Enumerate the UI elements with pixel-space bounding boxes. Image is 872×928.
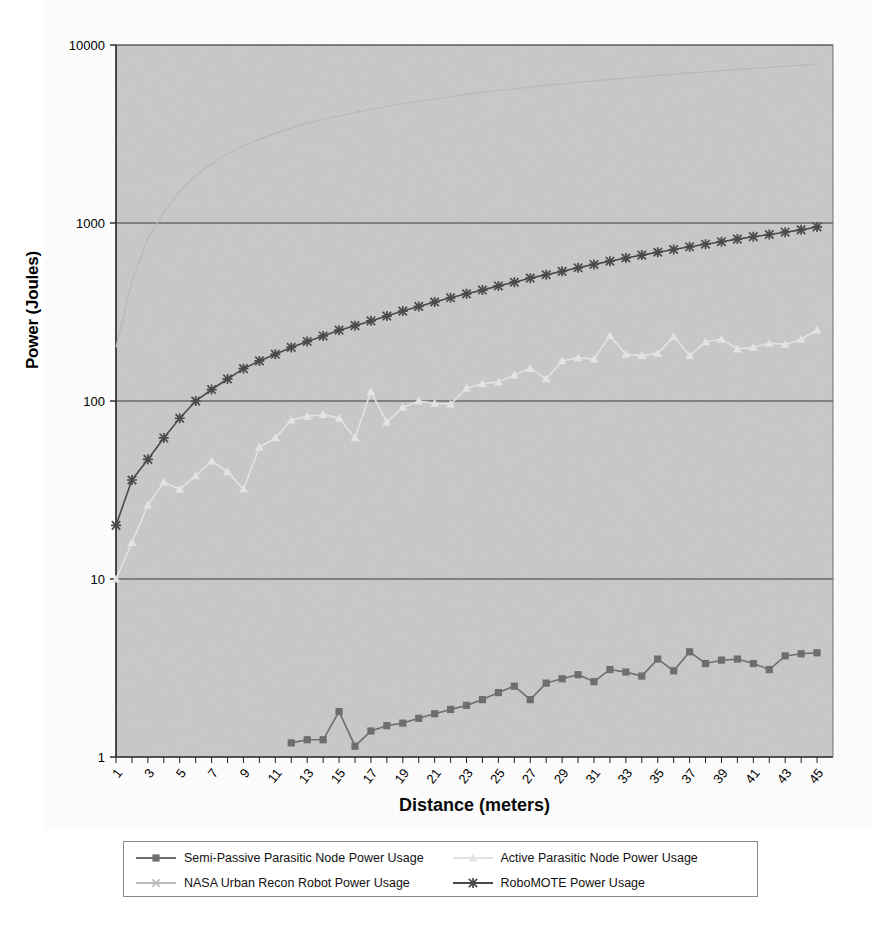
legend-label: Active Parasitic Node Power Usage [501,851,698,865]
marker-square [320,736,327,743]
marker-square [798,650,805,657]
marker-asterisk [270,349,280,359]
marker-asterisk [653,247,663,257]
marker-square [304,736,311,743]
chart-legend: Semi-Passive Parasitic Node Power UsageA… [123,841,758,897]
x-tick-label: 7 [205,766,221,781]
marker-square [622,668,629,675]
marker-asterisk [557,266,567,276]
x-tick-label: 29 [551,766,572,787]
marker-asterisk [812,222,822,232]
legend-label: RoboMOTE Power Usage [501,876,646,890]
marker-asterisk [796,225,806,235]
marker-asterisk [468,878,478,888]
marker-square [638,672,645,679]
marker-square [654,655,661,662]
marker-square [718,657,725,664]
y-tick-label: 1000 [76,216,105,231]
marker-asterisk [764,229,774,239]
marker-square [766,666,773,673]
marker-asterisk [589,259,599,269]
x-tick-label: 35 [646,766,667,787]
legend-item[interactable]: Semi-Passive Parasitic Node Power Usage [124,845,441,870]
marker-asterisk [493,281,503,291]
marker-asterisk [143,454,153,464]
y-tick-label: 100 [83,394,105,409]
marker-asterisk [462,289,472,299]
legend-item[interactable]: Active Parasitic Node Power Usage [441,845,758,870]
marker-square [686,648,693,655]
x-tick-label: 41 [742,766,763,787]
marker-asterisk [318,331,328,341]
marker-square [511,683,518,690]
marker-asterisk [716,237,726,247]
y-tick-label: 10 [91,572,105,587]
marker-asterisk [254,356,264,366]
plot-area: 1101001000100001357911131517192123252729… [0,0,872,830]
x-tick-label: 31 [583,766,604,787]
marker-square [351,743,358,750]
marker-asterisk [334,325,344,335]
marker-asterisk [366,316,376,326]
marker-square [335,708,342,715]
x-tick-label: 45 [806,766,827,787]
x-tick-label: 1 [109,766,125,781]
marker-square [288,739,295,746]
marker-asterisk [685,242,695,252]
marker-square [606,666,613,673]
legend-marker-asterisk-icon [451,876,495,890]
marker-square [559,675,566,682]
marker-square [463,702,470,709]
marker-asterisk [541,270,551,280]
marker-asterisk [732,234,742,244]
marker-square [415,715,422,722]
marker-square [813,649,820,656]
x-tick-label: 39 [710,766,731,787]
marker-asterisk [621,253,631,263]
legend-marker-triangle-icon [451,851,495,865]
marker-square [543,680,550,687]
marker-square [447,706,454,713]
x-tick-label: 11 [265,766,285,786]
marker-square [479,696,486,703]
marker-asterisk [223,374,233,384]
y-tick-label: 1 [98,750,105,765]
x-tick-label: 21 [423,766,444,787]
marker-asterisk [191,396,201,406]
marker-square [383,722,390,729]
marker-asterisk [637,250,647,260]
legend-marker-square-icon [134,851,178,865]
marker-asterisk [302,336,312,346]
marker-square [399,720,406,727]
x-tick-label: 13 [296,766,317,787]
x-tick-label: 3 [141,766,157,781]
legend-symbol [468,878,478,888]
marker-asterisk [286,342,296,352]
x-tick-label: 33 [615,766,636,787]
marker-square [750,660,757,667]
marker-asterisk [701,239,711,249]
legend-label: Semi-Passive Parasitic Node Power Usage [184,851,424,865]
x-tick-label: 25 [487,766,508,787]
marker-asterisk [525,273,535,283]
marker-square [702,660,709,667]
x-tick-label: 37 [678,766,699,787]
marker-asterisk [238,364,248,374]
legend-item[interactable]: RoboMOTE Power Usage [441,870,758,895]
y-tick-label: 10000 [69,38,105,53]
marker-square [590,678,597,685]
marker-asterisk [207,385,217,395]
marker-square [574,671,581,678]
marker-square [782,652,789,659]
marker-asterisk [430,297,440,307]
marker-asterisk [127,475,137,485]
marker-asterisk [350,321,360,331]
legend-item[interactable]: NASA Urban Recon Robot Power Usage [124,870,441,895]
marker-asterisk [573,263,583,273]
marker-asterisk [382,311,392,321]
marker-square [367,727,374,734]
marker-square [431,710,438,717]
chart-figure: Power (Joules) Distance (meters) 1101001… [0,0,872,928]
marker-square [670,667,677,674]
marker-asterisk [605,256,615,266]
